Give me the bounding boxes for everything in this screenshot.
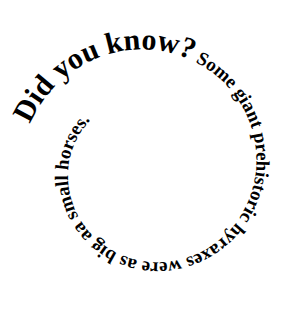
fact-segment: Some giant prehistoric hyraxes were as b… <box>51 45 274 280</box>
headline-segment: Did you know? <box>6 22 202 127</box>
spiral-text-graphic: Did you know? Some giant prehistoric hyr… <box>0 0 296 323</box>
spiral-text: Did you know? Some giant prehistoric hyr… <box>6 22 274 279</box>
spiral-textpath: Did you know? Some giant prehistoric hyr… <box>6 22 274 279</box>
